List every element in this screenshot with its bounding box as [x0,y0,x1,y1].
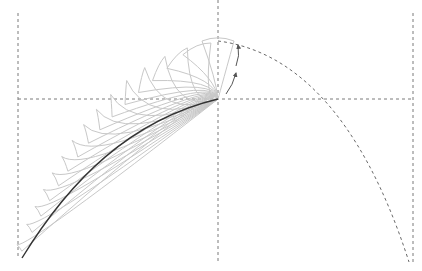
rotation-arrows [226,45,239,94]
arc-diagram [0,0,422,271]
guide-lines [18,0,413,262]
petal-fan [17,38,234,251]
rotation-arrow-lower-icon [226,73,236,94]
rotation-arrow-upper-icon [236,45,239,66]
dashed-trajectory [218,41,409,262]
